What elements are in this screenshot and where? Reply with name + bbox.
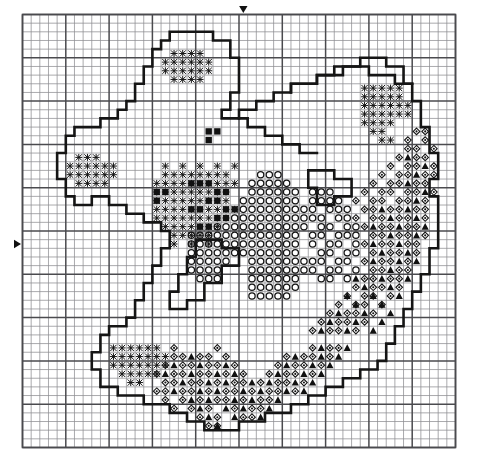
cross-star-stitch bbox=[84, 171, 91, 178]
cross-star-stitch bbox=[171, 67, 178, 74]
cross-star-stitch bbox=[171, 180, 178, 187]
cross-star-stitch bbox=[188, 171, 195, 178]
filled-square-stitch bbox=[197, 223, 203, 229]
cross-star-stitch bbox=[370, 119, 377, 126]
cross-star-stitch bbox=[75, 171, 82, 178]
cross-star-stitch bbox=[162, 171, 169, 178]
cross-star-stitch bbox=[179, 223, 186, 230]
cross-star-stitch bbox=[153, 344, 160, 351]
filled-square-stitch bbox=[223, 206, 229, 212]
filled-square-stitch bbox=[205, 137, 211, 143]
cross-star-stitch bbox=[162, 353, 169, 360]
cross-star-stitch bbox=[378, 119, 385, 126]
cross-star-stitch bbox=[205, 206, 212, 213]
cross-star-stitch bbox=[197, 76, 204, 83]
cross-star-stitch bbox=[197, 59, 204, 66]
cross-star-stitch bbox=[162, 197, 169, 204]
filled-square-stitch bbox=[214, 215, 220, 221]
cross-star-stitch bbox=[119, 353, 126, 360]
cross-star-stitch bbox=[179, 197, 186, 204]
cross-star-stitch bbox=[75, 180, 82, 187]
cross-star-stitch bbox=[197, 67, 204, 74]
cross-star-stitch bbox=[387, 111, 394, 118]
cross-star-stitch bbox=[361, 93, 368, 100]
cross-star-stitch bbox=[67, 171, 74, 178]
cross-star-stitch bbox=[223, 180, 230, 187]
cross-star-stitch bbox=[179, 50, 186, 57]
cross-star-stitch bbox=[378, 137, 385, 144]
cross-star-stitch bbox=[75, 163, 82, 170]
cross-star-stitch bbox=[188, 223, 195, 230]
pattern-canvas bbox=[0, 0, 477, 469]
cross-star-stitch bbox=[361, 119, 368, 126]
cross-star-stitch bbox=[370, 102, 377, 109]
filled-square-stitch bbox=[197, 206, 203, 212]
cross-star-stitch bbox=[162, 59, 169, 66]
cross-star-stitch bbox=[231, 180, 238, 187]
cross-star-stitch bbox=[188, 189, 195, 196]
cross-star-stitch bbox=[171, 189, 178, 196]
cross-star-stitch bbox=[136, 370, 143, 377]
cross-star-stitch bbox=[205, 67, 212, 74]
cross-star-stitch bbox=[396, 85, 403, 92]
filled-square-stitch bbox=[188, 180, 194, 186]
cross-star-stitch bbox=[171, 59, 178, 66]
cross-star-stitch bbox=[179, 232, 186, 239]
cross-star-stitch bbox=[171, 171, 178, 178]
cross-star-stitch bbox=[387, 137, 394, 144]
cross-star-stitch bbox=[162, 206, 169, 213]
filled-square-stitch bbox=[231, 206, 237, 212]
cross-star-stitch bbox=[370, 85, 377, 92]
cross-star-stitch bbox=[127, 379, 134, 386]
cross-star-stitch bbox=[171, 215, 178, 222]
cross-star-stitch bbox=[136, 353, 143, 360]
cross-star-stitch bbox=[179, 180, 186, 187]
cross-star-stitch bbox=[214, 171, 221, 178]
cross-star-stitch bbox=[396, 111, 403, 118]
cross-star-stitch bbox=[110, 163, 117, 170]
cross-star-stitch bbox=[223, 171, 230, 178]
cross-star-stitch bbox=[205, 189, 212, 196]
cross-star-stitch bbox=[93, 180, 100, 187]
cross-star-stitch bbox=[179, 171, 186, 178]
cross-star-stitch bbox=[361, 85, 368, 92]
cross-star-stitch bbox=[93, 163, 100, 170]
filled-square-stitch bbox=[205, 180, 211, 186]
cross-star-stitch bbox=[370, 128, 377, 135]
cross-star-stitch bbox=[67, 163, 74, 170]
cross-star-stitch bbox=[93, 154, 100, 161]
filled-square-stitch bbox=[205, 223, 211, 229]
cross-star-stitch bbox=[110, 171, 117, 178]
cross-star-stitch bbox=[171, 76, 178, 83]
cross-star-stitch bbox=[101, 163, 108, 170]
cross-star-stitch bbox=[145, 353, 152, 360]
cross-star-stitch bbox=[396, 93, 403, 100]
cross-star-stitch bbox=[197, 171, 204, 178]
cross-star-stitch bbox=[119, 362, 126, 369]
cross-star-stitch bbox=[171, 197, 178, 204]
cross-star-stitch bbox=[162, 67, 169, 74]
cross-star-stitch bbox=[188, 76, 195, 83]
cross-star-stitch bbox=[179, 215, 186, 222]
filled-square-stitch bbox=[188, 206, 194, 212]
cross-star-stitch bbox=[378, 128, 385, 135]
cross-star-stitch bbox=[378, 93, 385, 100]
filled-square-stitch bbox=[162, 189, 168, 195]
cross-star-stitch bbox=[136, 344, 143, 351]
cross-star-stitch bbox=[127, 353, 134, 360]
cross-star-stitch bbox=[84, 154, 91, 161]
cross-star-stitch bbox=[404, 111, 411, 118]
cross-star-stitch bbox=[153, 353, 160, 360]
cross-star-stitch bbox=[179, 206, 186, 213]
cross-star-stitch bbox=[370, 111, 377, 118]
cross-star-stitch bbox=[162, 180, 169, 187]
cross-star-stitch bbox=[370, 93, 377, 100]
cross-star-stitch bbox=[171, 232, 178, 239]
filled-square-stitch bbox=[223, 215, 229, 221]
cross-star-stitch bbox=[136, 362, 143, 369]
cross-star-stitch bbox=[179, 59, 186, 66]
cross-star-stitch bbox=[84, 180, 91, 187]
cross-star-stitch bbox=[119, 370, 126, 377]
filled-square-stitch bbox=[205, 197, 211, 203]
cross-star-stitch bbox=[404, 102, 411, 109]
